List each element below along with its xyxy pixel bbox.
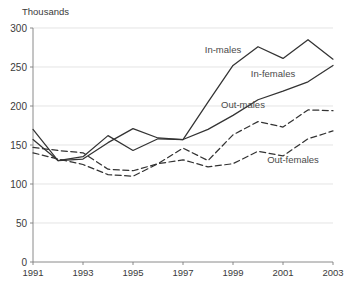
x-axis-tick-labels: 1991199319951997199920012003 [22, 267, 343, 278]
x-axis-label-2001: 2001 [272, 267, 293, 278]
x-axis-label-2003: 2003 [322, 267, 343, 278]
y-axis-tick-labels: 050100150200250300 [10, 23, 27, 268]
line-chart: 050100150200250300 199119931995199719992… [0, 0, 347, 288]
chart-canvas: 050100150200250300 199119931995199719992… [0, 0, 347, 288]
x-axis-label-1997: 1997 [172, 267, 193, 278]
y-axis-label-250: 250 [10, 62, 27, 73]
y-axis-label-50: 50 [16, 218, 28, 229]
y-axis-label-0: 0 [21, 257, 27, 268]
series-label-out-females: Out-females [267, 154, 319, 165]
gridlines-group [33, 28, 333, 223]
x-axis-label-1995: 1995 [122, 267, 143, 278]
series-annotation-labels: In-malesIn-femalesOut-malesOut-females [205, 44, 319, 165]
y-axis-label-300: 300 [10, 23, 27, 34]
x-axis-label-1991: 1991 [22, 267, 43, 278]
series-label-in-males: In-males [205, 44, 242, 55]
series-label-in-females: In-females [251, 68, 296, 79]
y-axis-label-150: 150 [10, 140, 27, 151]
series-label-out-males: Out-males [221, 99, 265, 110]
y-axis-unit-label: Thousands [22, 6, 69, 17]
x-axis-label-1999: 1999 [222, 267, 243, 278]
x-axis-label-1993: 1993 [72, 267, 93, 278]
axes-group [30, 28, 333, 265]
series-line-in-males [33, 40, 333, 161]
y-axis-label-100: 100 [10, 179, 27, 190]
series-line-in-females [33, 65, 333, 160]
y-axis-label-200: 200 [10, 101, 27, 112]
